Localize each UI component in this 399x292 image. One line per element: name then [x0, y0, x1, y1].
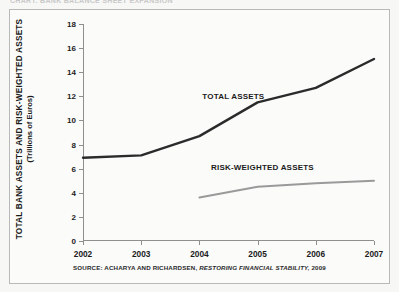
x-tick: [316, 241, 317, 245]
series-label-risk-weighted-assets: RISK-WEIGHTED ASSETS: [211, 163, 314, 172]
chart-figure: CHART: BANK BALANCE SHEET EXPANSION TOTA…: [0, 0, 399, 292]
y-axis-title-main: TOTAL BANK ASSETS AND RISK-WEIGHTED ASSE…: [15, 19, 25, 240]
y-tick-label: 18: [67, 20, 76, 29]
source-year: 2009: [312, 264, 326, 271]
series-lines: [83, 24, 374, 241]
y-tick-label: 6: [72, 164, 76, 173]
y-tick-label: 14: [67, 68, 76, 77]
y-tick-label: 8: [72, 140, 76, 149]
y-axis-title: TOTAL BANK ASSETS AND RISK-WEIGHTED ASSE…: [12, 14, 38, 244]
line-risk-weighted-assets: [199, 181, 374, 198]
x-tick: [258, 241, 259, 245]
x-tick-label: 2002: [74, 249, 92, 259]
x-tick-label: 2003: [132, 249, 150, 259]
x-tick: [83, 241, 84, 245]
y-tick-label: 2: [72, 212, 76, 221]
x-tick-label: 2007: [365, 249, 383, 259]
x-tick-label: 2005: [248, 249, 266, 259]
y-tick-label: 4: [72, 188, 76, 197]
y-tick-label: 0: [72, 237, 76, 246]
x-tick: [141, 241, 142, 245]
x-tick-label: 2006: [307, 249, 325, 259]
y-tick-label: 16: [67, 44, 76, 53]
x-tick: [199, 241, 200, 245]
source-note: SOURCE: ACHARYA AND RICHARDSEN, RESTORIN…: [0, 264, 399, 271]
x-tick: [374, 241, 375, 245]
clipped-headline: CHART: BANK BALANCE SHEET EXPANSION: [10, 0, 390, 5]
y-axis-title-units: (Trillions of Euros): [25, 19, 35, 240]
source-title: RESTORING FINANCIAL STABILITY,: [199, 264, 310, 271]
y-tick-label: 10: [67, 116, 76, 125]
line-total-assets: [83, 59, 374, 158]
series-label-total-assets: TOTAL ASSETS: [202, 92, 264, 101]
source-prefix: SOURCE: ACHARYA AND RICHARDSEN,: [73, 264, 197, 271]
x-tick-label: 2004: [190, 249, 208, 259]
y-tick-label: 12: [67, 92, 76, 101]
plot-area: 024681012141618 200220032004200520062007…: [83, 24, 374, 241]
